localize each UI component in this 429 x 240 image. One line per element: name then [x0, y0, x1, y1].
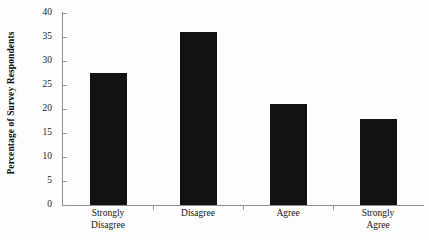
bar-chart: Percentage of Survey Respondents 4035302…	[0, 0, 429, 240]
x-axis-category-label-line: Disagree	[153, 208, 243, 220]
bar	[180, 32, 217, 205]
bar	[90, 73, 127, 205]
x-axis-category-label-line: Strongly	[333, 208, 423, 220]
x-axis-category-label: Agree	[243, 208, 333, 220]
y-axis-tick-label: 35	[26, 32, 52, 42]
x-axis-category-label-line: Disagree	[63, 220, 153, 232]
bar	[270, 104, 307, 205]
y-axis-tick-label: 30	[26, 56, 52, 66]
y-axis-tick-label: 5	[26, 176, 52, 186]
y-axis-tick-label: 40	[26, 8, 52, 18]
x-axis-category-label-line: Agree	[243, 208, 333, 220]
y-axis-tick-mark	[63, 205, 67, 206]
y-axis-title: Percentage of Survey Respondents	[0, 0, 22, 205]
x-axis-category-label-line: Strongly	[63, 208, 153, 220]
page-edge	[0, 236, 429, 240]
y-axis-title-text: Percentage of Survey Respondents	[6, 31, 16, 174]
x-axis-category-label: StronglyAgree	[333, 208, 423, 231]
bar	[360, 119, 397, 205]
x-axis-category-label: StronglyDisagree	[63, 208, 153, 231]
y-axis-tick-label: 15	[26, 128, 52, 138]
y-axis-tick-label: 20	[26, 104, 52, 114]
x-axis-category-label-line: Agree	[333, 220, 423, 232]
plot-area	[63, 13, 423, 205]
x-axis-category-label: Disagree	[153, 208, 243, 220]
y-axis-tick-label: 0	[26, 200, 52, 210]
y-axis-tick-label: 10	[26, 152, 52, 162]
y-axis-tick-label: 25	[26, 80, 52, 90]
